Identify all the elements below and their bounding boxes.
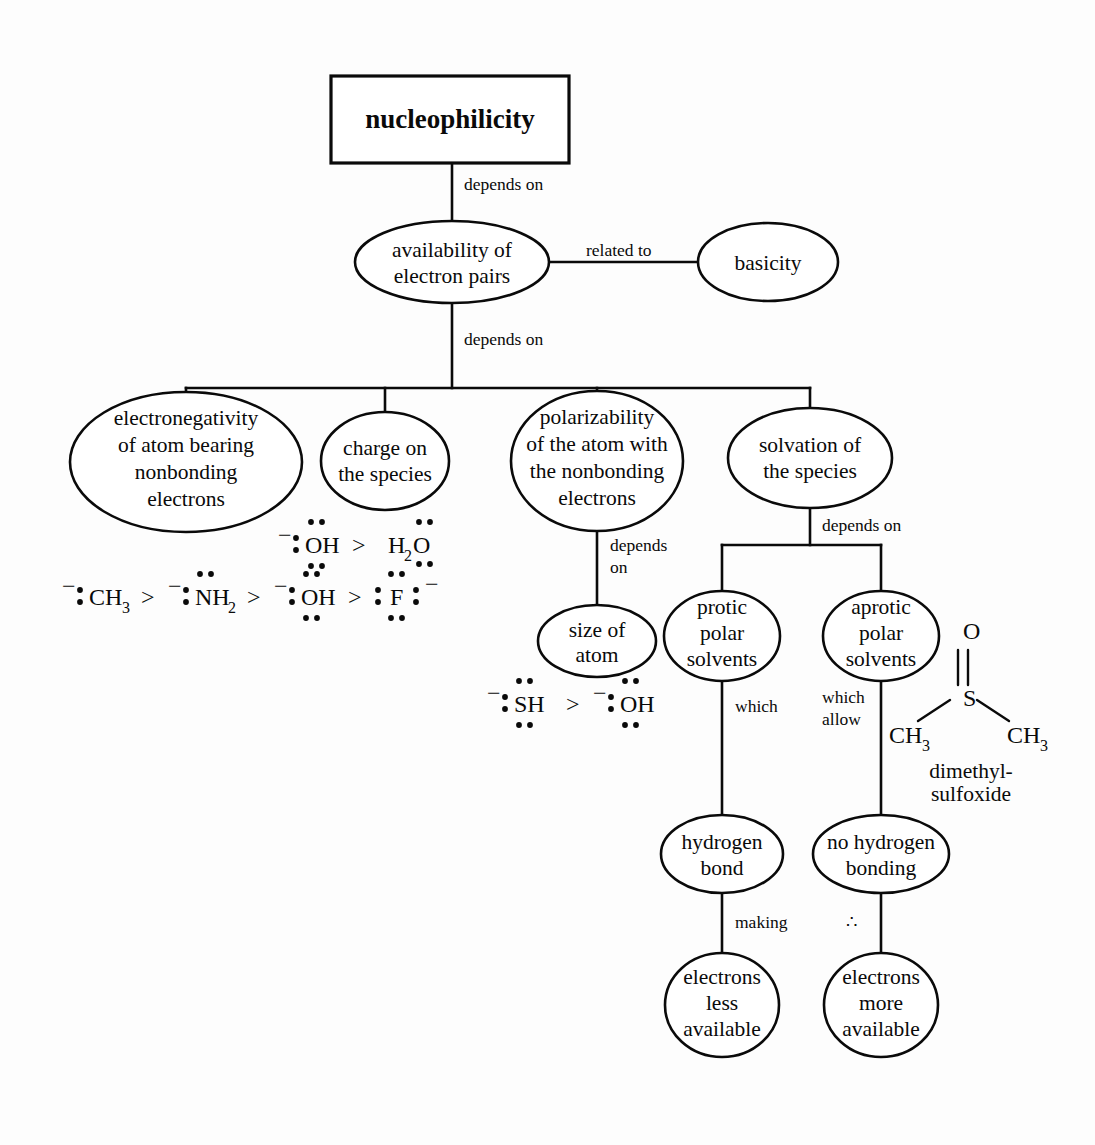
en-dot-oh-t2 [314,571,320,577]
link-label-which: which [735,696,778,716]
en-dot-nh2-2 [183,599,189,605]
polarizability-label-line4: electrons [558,486,636,510]
en-minus-1: − [62,573,76,599]
node-nucleophilicity[interactable]: nucleophilicity [331,76,569,163]
charge-dot-b3 [416,561,422,567]
charge-ellipse [321,412,449,510]
electrons-less-label-line3: available [683,1017,761,1041]
size-dot-s-l1 [502,694,508,700]
charge-series-h: H [388,532,405,558]
en-dot-nh2-t1 [197,571,203,577]
dmso-methyl-right-sub: 3 [1040,737,1048,754]
electrons-more-label-line3: available [842,1017,920,1041]
hydrogen-bond-label-line1: hydrogen [681,830,762,854]
en-ch: CH [89,584,122,610]
en-dot-oh-b2 [314,615,320,621]
node-electrons-more-available[interactable]: electrons more available [824,953,938,1057]
polarizability-label-line3: the nonbonding [530,459,665,483]
en-dot-nh2-t2 [208,571,214,577]
size-dot-o-l2 [608,706,614,712]
dmso-sulfur: S [963,685,976,711]
size-dot-s-t2 [527,678,533,684]
size-of-atom-label-line1: size of [569,618,627,642]
dmso-bond-left-methyl [918,700,950,721]
en-dot-oh-b1 [303,615,309,621]
node-availability-of-electron-pairs[interactable]: availability of electron pairs [355,221,549,303]
en-minus-2: − [168,573,182,599]
charge-label-line1: charge on [343,436,427,460]
node-charge-on-species[interactable]: charge on the species [321,412,449,510]
hydrogen-bond-label-line2: bond [701,856,744,880]
size-oh: OH [620,691,655,717]
dmso-oxygen: O [963,618,980,644]
size-dot-s-b1 [516,722,522,728]
node-electrons-less-available[interactable]: electrons less available [665,953,779,1057]
dmso-name-line2: sulfoxide [931,782,1011,806]
en-ch-sub: 3 [122,599,130,616]
en-minus-4: − [425,571,439,597]
chem-electronegativity-series: − CH 3 > − NH 2 > − OH > F − [62,571,439,621]
aprotic-label-line2: polar [859,621,903,645]
size-sh: SH [514,691,545,717]
en-dot-f-r2 [413,599,419,605]
no-hydrogen-bonding-label-line1: no hydrogen [827,830,935,854]
en-gt-1: > [141,584,155,610]
chem-size-series: − SH > − OH [487,678,655,728]
node-hydrogen-bond[interactable]: hydrogen bond [661,815,783,893]
protic-label-line3: solvents [687,647,757,671]
node-solvation[interactable]: solvation of the species [728,408,892,508]
availability-label-line1: availability of [392,238,513,262]
no-hydrogen-bonding-ellipse [813,815,949,893]
size-minus-1: − [487,680,501,706]
link-label-making: making [735,912,788,932]
dmso-methyl-left-sub: 3 [922,737,930,754]
size-dot-o-t1 [622,678,628,684]
node-basicity[interactable]: basicity [698,223,838,301]
en-dot-f-l1 [375,587,381,593]
node-size-of-atom[interactable]: size of atom [538,605,656,677]
link-label-depends-line1: depends [610,535,668,555]
en-dot-f-l2 [375,599,381,605]
charge-dot-l2 [293,547,299,553]
charge-series-oh: OH [305,532,340,558]
charge-dot-b2 [319,563,325,569]
protic-label-line1: protic [697,595,747,619]
node-electronegativity[interactable]: electronegativity of atom bearing nonbon… [70,392,302,532]
electrons-more-label-line2: more [859,991,903,1015]
polarizability-label-line2: of the atom with [526,432,668,456]
node-aprotic-polar-solvents[interactable]: aprotic polar solvents [823,591,939,681]
node-polarizability[interactable]: polarizability of the atom with the nonb… [511,391,683,531]
en-nh: NH [195,584,230,610]
aprotic-label-line3: solvents [846,647,916,671]
electrons-less-label-line1: electrons [683,965,761,989]
electronegativity-label-line4: electrons [147,487,225,511]
charge-dot-t4 [427,519,433,525]
link-label-which-allow-line2: allow [822,709,861,729]
solvation-label-line2: the species [763,459,857,483]
en-dot-oh-1 [289,587,295,593]
electronegativity-label-line3: nonbonding [135,460,238,484]
node-protic-polar-solvents[interactable]: protic polar solvents [664,591,780,681]
size-dot-s-t1 [516,678,522,684]
en-minus-3: − [274,573,288,599]
basicity-label: basicity [735,251,802,275]
charge-dot-l1 [293,535,299,541]
availability-label-line2: electron pairs [394,264,510,288]
electronegativity-label-line1: electronegativity [114,406,259,430]
charge-series-o: O [413,532,430,558]
charge-series-gt: > [352,532,366,558]
solvation-ellipse [728,408,892,508]
size-dot-o-b2 [633,722,639,728]
charge-dot-t1 [308,519,314,525]
en-dot-ch3-2 [77,599,83,605]
electrons-less-label-line2: less [706,991,738,1015]
aprotic-label-line1: aprotic [851,595,911,619]
en-f: F [390,584,403,610]
en-dot-oh-t1 [303,571,309,577]
node-no-hydrogen-bonding[interactable]: no hydrogen bonding [813,815,949,893]
size-dot-s-b2 [527,722,533,728]
en-oh: OH [301,584,336,610]
link-label-which-allow-line1: which [822,687,865,707]
nucleophilicity-label: nucleophilicity [365,104,535,134]
charge-dot-b4 [427,561,433,567]
